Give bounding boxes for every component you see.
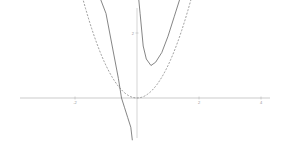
x-tick-label: 4 — [260, 100, 263, 105]
function-plot: -2242 — [0, 0, 284, 144]
solid-curve-right-branch — [139, 0, 181, 66]
x-tick-label: 2 — [198, 100, 201, 105]
y-tick-label: 2 — [132, 31, 135, 36]
x-tick-label: -2 — [73, 100, 77, 105]
ticks: -2242 — [73, 31, 263, 106]
solid-curve-left-branch — [100, 0, 133, 140]
axes — [20, 8, 270, 138]
